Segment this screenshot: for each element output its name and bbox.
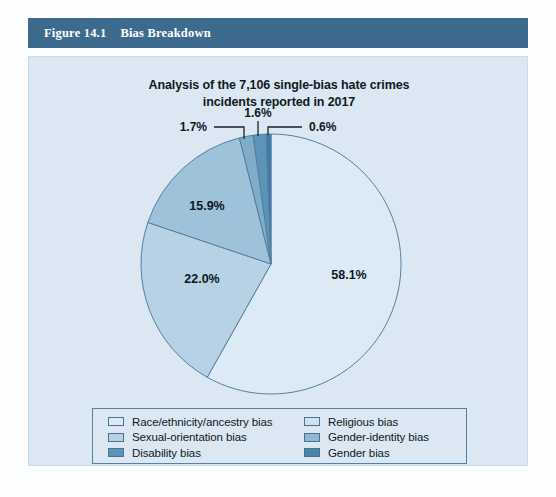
legend-item-race-ethnicity-ancestry: Race/ethnicity/ancestry bias <box>108 414 304 430</box>
legend-label-gender-identity: Gender-identity bias <box>328 431 429 443</box>
legend-swatch-gender-identity <box>304 433 320 442</box>
legend-swatch-sexual-orientation <box>108 433 124 442</box>
legend-item-sexual-orientation: Sexual-orientation bias <box>108 430 304 446</box>
pie-chart: 1.7% 1.6% 0.6% 15.9% 22.0% 58.1% <box>29 57 529 417</box>
figure-number: Figure 14.1 <box>44 26 106 41</box>
legend-label-disability: Disability bias <box>132 447 201 459</box>
pie-label-sexual-orientation: 15.9% <box>189 199 224 213</box>
legend-swatch-religious <box>304 417 320 426</box>
pie-label-disability: 1.6% <box>244 106 272 120</box>
legend-label-religious: Religious bias <box>328 416 398 428</box>
legend-item-gender: Gender bias <box>304 445 483 461</box>
figure-header-bar: Figure 14.1 Bias Breakdown <box>28 18 528 48</box>
legend-item-disability: Disability bias <box>108 445 304 461</box>
legend-label-gender: Gender bias <box>328 447 390 459</box>
legend-label-sexual-orientation: Sexual-orientation bias <box>132 431 247 443</box>
legend-label-race-ethnicity-ancestry: Race/ethnicity/ancestry bias <box>132 416 272 428</box>
pie-label-religious: 22.0% <box>184 272 219 286</box>
legend-item-gender-identity: Gender-identity bias <box>304 430 483 446</box>
chart-legend: Race/ethnicity/ancestry bias Religious b… <box>92 408 467 464</box>
leader-line-gender-identity <box>214 127 244 139</box>
pie-label-race-ethnicity-ancestry: 58.1% <box>331 268 366 282</box>
legend-item-religious: Religious bias <box>304 414 483 430</box>
pie-label-gender: 0.6% <box>309 120 337 134</box>
figure-title: Bias Breakdown <box>120 26 210 41</box>
legend-swatch-disability <box>108 448 124 457</box>
figure-panel: Analysis of the 7,106 single-bias hate c… <box>28 56 528 466</box>
legend-swatch-race-ethnicity-ancestry <box>108 417 124 426</box>
pie-chart-svg: 1.7% 1.6% 0.6% 15.9% 22.0% 58.1% <box>29 57 529 417</box>
legend-swatch-gender <box>304 448 320 457</box>
pie-label-gender-identity: 1.7% <box>180 120 208 134</box>
